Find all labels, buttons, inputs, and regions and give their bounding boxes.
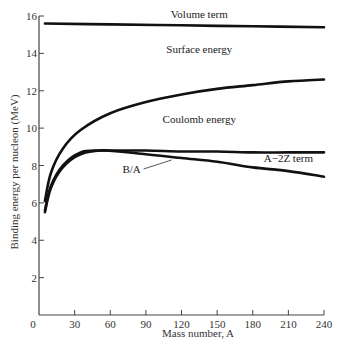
x-tick-label: 30 bbox=[69, 318, 81, 330]
annotation-label: B/A bbox=[122, 163, 140, 175]
x-tick-label: 180 bbox=[245, 318, 262, 330]
x-tick-label: 210 bbox=[280, 318, 297, 330]
y-tick-label: 6 bbox=[32, 197, 38, 209]
x-tick-label: 240 bbox=[316, 318, 333, 330]
x-tick-label: 60 bbox=[105, 318, 117, 330]
series-curve-0 bbox=[45, 23, 324, 27]
y-tick-label: 4 bbox=[32, 234, 38, 246]
x-axis-title: Mass number, A bbox=[162, 327, 234, 339]
b-over-a-leader-line bbox=[144, 160, 172, 169]
y-tick-label: 2 bbox=[32, 272, 38, 284]
y-tick-label: 14 bbox=[26, 47, 38, 59]
axes bbox=[39, 16, 324, 315]
binding-energy-chart: 0306090120150180210240246810121416 Volum… bbox=[0, 0, 344, 350]
y-tick-label: 12 bbox=[26, 85, 37, 97]
annotation-label: Surface energy bbox=[166, 43, 233, 55]
series-curve-1 bbox=[45, 80, 324, 202]
y-tick-label: 10 bbox=[26, 122, 38, 134]
annotation-label: Coulomb energy bbox=[163, 113, 237, 125]
y-tick-label: 8 bbox=[32, 160, 38, 172]
annotation-label: Volume term bbox=[171, 8, 228, 20]
x-tick-label: 90 bbox=[140, 318, 152, 330]
y-axis-title: Binding energy per nucleon (MeV) bbox=[8, 94, 21, 249]
x-tick-label: 0 bbox=[30, 318, 36, 330]
y-tick-label: 16 bbox=[26, 10, 38, 22]
annotation-label: A−2Z term bbox=[264, 152, 314, 164]
